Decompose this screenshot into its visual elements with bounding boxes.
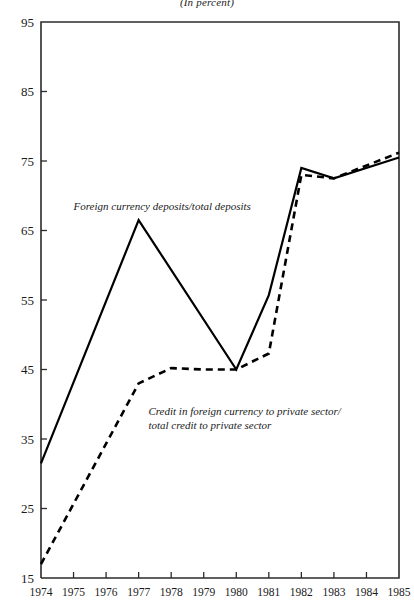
series-label-foreign-currency-deposits: Foreign currency deposits/total deposits <box>73 200 251 212</box>
series-label-credit-foreign-currency-line1: Credit in foreign currency to private se… <box>148 405 341 417</box>
plot-frame <box>41 22 399 578</box>
x-tick-label: 1975 <box>62 586 85 598</box>
y-tick-label: 95 <box>21 15 34 30</box>
y-tick-label: 85 <box>21 84 34 99</box>
y-tick-label: 75 <box>21 154 34 169</box>
chart-container: (In percent) 958575655545352515197419751… <box>0 0 414 610</box>
y-tick-label: 15 <box>21 571 34 586</box>
y-tick-label: 65 <box>21 223 34 238</box>
y-tick-label: 45 <box>21 362 34 377</box>
y-tick-label: 55 <box>21 293 34 308</box>
x-tick-label: 1974 <box>30 586 53 598</box>
x-tick-label: 1979 <box>192 586 215 598</box>
y-tick-label: 25 <box>21 501 34 516</box>
series-label-credit-foreign-currency-line2: total credit to private sector <box>148 419 272 431</box>
x-tick-label: 1983 <box>322 586 345 598</box>
x-tick-label: 1978 <box>160 586 183 598</box>
x-tick-label: 1981 <box>257 586 280 598</box>
x-tick-label: 1976 <box>95 586 118 598</box>
x-tick-label: 1985 <box>388 586 411 598</box>
y-tick-label: 35 <box>21 432 34 447</box>
x-tick-label: 1982 <box>290 586 313 598</box>
x-tick-label: 1980 <box>225 586 248 598</box>
series-line-2 <box>41 153 399 564</box>
line-chart: 9585756555453525151974197519761977197819… <box>0 0 414 610</box>
x-tick-label: 1984 <box>355 586 378 598</box>
x-tick-label: 1977 <box>127 586 150 598</box>
